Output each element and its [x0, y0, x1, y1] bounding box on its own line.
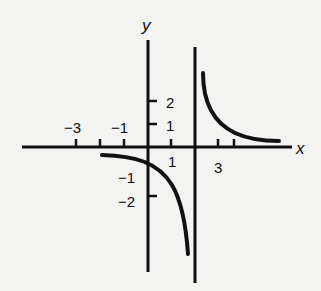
x-tick-label-neg3: −3: [64, 119, 81, 136]
right-branch-curve: [203, 73, 279, 141]
x-axis-label: x: [295, 139, 305, 158]
y-tick-label-neg2: −2: [118, 193, 135, 210]
x-tick-label-neg1: −1: [111, 119, 128, 136]
function-graph: y x −3 −1 1 3 2 1 −1 −2: [0, 0, 321, 291]
y-tick-label-2: 2: [166, 94, 174, 111]
y-axis-label: y: [141, 16, 152, 35]
x-tick-label-1: 1: [168, 153, 176, 170]
y-tick-label-neg1: −1: [118, 169, 135, 186]
y-tick-label-1: 1: [166, 117, 174, 134]
x-tick-label-3: 3: [214, 159, 222, 176]
